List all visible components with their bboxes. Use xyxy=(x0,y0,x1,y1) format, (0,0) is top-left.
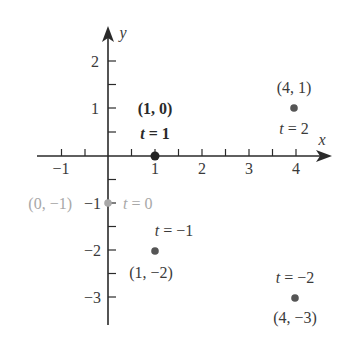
y-tick-label-minus-2: −2 xyxy=(84,242,101,259)
point-t-2-t-label: t = 2 xyxy=(279,120,308,137)
point-t-minus-2-coord-label: (4, −3) xyxy=(273,309,317,327)
y-tick-label-minus-3: −3 xyxy=(84,289,101,306)
point-t-minus-1-coord-label: (1, −2) xyxy=(129,264,173,282)
x-tick-label-2: 2 xyxy=(198,160,206,177)
point-t-2 xyxy=(290,104,298,112)
y-tick-label-2: 2 xyxy=(91,53,99,70)
x-axis: −1 1 2 3 4 x xyxy=(37,131,332,177)
y-axis: 2 1 −1 −2 −3 y xyxy=(84,24,127,325)
parametric-plot: −1 1 2 3 4 x 2 1 −1 −2 −3 y (1, 0) t = 1 xyxy=(0,0,347,342)
y-axis-label: y xyxy=(117,24,127,42)
point-t-minus-1 xyxy=(151,247,159,255)
data-points: (1, 0) t = 1 (4, 1) t = 2 (0, −1) t = 0 … xyxy=(28,79,317,327)
x-axis-label: x xyxy=(317,131,325,148)
x-tick-label-3: 3 xyxy=(245,160,253,177)
point-t-0-t-label: t = 0 xyxy=(123,195,152,212)
y-tick-label-1: 1 xyxy=(91,100,99,117)
x-tick-label-minus-1: −1 xyxy=(52,160,69,177)
point-t-minus-1-t-label: t = −1 xyxy=(155,222,194,239)
point-t-1-coord-label: (1, 0) xyxy=(138,100,173,118)
point-t-2-coord-label: (4, 1) xyxy=(277,79,312,97)
point-t-1 xyxy=(151,152,160,161)
y-tick-label-minus-1: −1 xyxy=(84,195,101,212)
point-t-0-coord-label: (0, −1) xyxy=(28,195,72,213)
point-t-minus-2-t-label: t = −2 xyxy=(276,269,315,286)
point-t-0 xyxy=(104,199,112,207)
x-tick-label-4: 4 xyxy=(292,160,300,177)
point-t-minus-2 xyxy=(291,294,299,302)
x-tick-label-1: 1 xyxy=(151,160,159,177)
point-t-1-t-label: t = 1 xyxy=(140,125,170,142)
